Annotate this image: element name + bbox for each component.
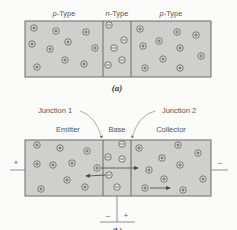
hole-icon [81,61,87,67]
electron-icon [106,172,112,178]
hole-icon [94,165,100,171]
hole-icon [62,57,68,63]
label-junction-2: Junction 2 [162,106,196,115]
electron-icon [114,184,120,190]
transistor-diagram: p-Type n-Type p-Type (a) Junction 1 Junc… [0,0,237,230]
hole-icon [92,45,98,51]
hole-icon [31,25,37,31]
junction-1-pointer [80,111,102,138]
hole-icon [180,187,186,193]
emitter-sign: + [14,158,19,167]
hole-icon [136,145,142,151]
hole-icon [177,162,183,168]
figure-b: Junction 1 Junction 2 Emitter Base Colle… [10,106,228,230]
hole-icon [198,53,204,59]
hole-icon [177,45,183,51]
electron-icon [105,62,111,68]
hole-icon [161,176,167,182]
hole-icon [83,29,89,35]
hole-icon [53,28,59,34]
label-p-type-right: p-Type [159,9,183,18]
base-plus-sign: + [124,211,129,220]
hole-icon [57,145,63,151]
hole-icon [177,65,183,71]
hole-icon [193,32,199,38]
hole-icon [175,142,181,148]
electron-icon [121,37,127,43]
hole-icon [34,142,40,148]
hole-icon [140,43,146,49]
hole-icon [142,185,148,191]
hole-icon [137,26,143,32]
electron-icon [105,154,111,160]
hole-icon [38,186,44,192]
caption-a: (a) [112,83,123,93]
electron-icon [119,156,125,162]
electron-icon [119,57,125,63]
hole-icon [65,39,71,45]
label-n-type: n-Type [106,9,129,18]
hole-icon [174,29,180,35]
hole-icon [146,167,152,173]
junction-2-pointer [132,111,155,138]
hole-icon [195,150,201,156]
label-junction-1: Junction 1 [38,106,72,115]
electron-icon [111,45,117,51]
figure-a: p-Type n-Type p-Type (a) [25,9,211,93]
electron-icon [119,141,125,147]
label-collector: Collector [156,125,186,134]
base-minus-sign: – [106,211,111,220]
hole-icon [29,41,35,47]
hole-icon [47,46,53,52]
electron-icon [106,22,112,28]
hole-icon [84,148,90,154]
caption-b: (b) [112,226,123,230]
hole-icon [82,184,88,190]
hole-icon [64,177,70,183]
label-p-type-left: p-Type [52,9,76,18]
collector-sign: – [218,158,223,167]
hole-icon [159,155,165,161]
label-base: Base [108,125,125,134]
hole-icon [160,56,166,62]
hole-icon [34,161,40,167]
hole-icon [156,38,162,44]
label-emitter: Emitter [56,125,80,134]
hole-icon [142,65,148,71]
hole-icon [200,176,206,182]
hole-icon [69,160,75,166]
hole-icon [50,162,56,168]
hole-icon [34,64,40,70]
